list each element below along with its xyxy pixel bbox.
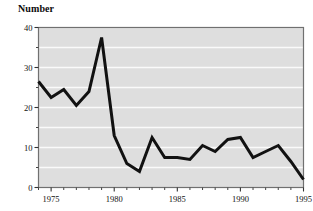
y-tick-label: 40 — [24, 23, 33, 33]
x-tick-label: 1990 — [232, 194, 249, 204]
x-axis-tick-labels: 19751980198519901995 — [43, 194, 312, 204]
y-tick-label: 20 — [24, 103, 33, 113]
x-axis-ticks — [39, 188, 304, 192]
line-chart: Number 010203040 19751980198519901995 — [0, 0, 313, 211]
y-tick-label: 30 — [24, 63, 33, 73]
x-tick-label: 1995 — [295, 194, 312, 204]
y-tick-label: 10 — [24, 143, 33, 153]
y-axis-tick-labels: 010203040 — [24, 23, 33, 193]
x-tick-label: 1975 — [43, 194, 60, 204]
x-tick-label: 1985 — [169, 194, 186, 204]
chart-plot-svg: 010203040 19751980198519901995 — [0, 0, 313, 211]
x-tick-label: 1980 — [106, 194, 123, 204]
y-tick-label: 0 — [28, 183, 32, 193]
